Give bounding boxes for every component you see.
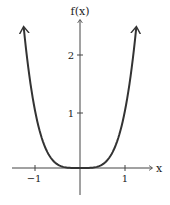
- chart-canvas: −1 1 1 2 x f(x): [0, 0, 170, 205]
- x-tick-label-neg1: −1: [27, 173, 42, 184]
- y-axis-label: f(x): [71, 5, 90, 18]
- x-axis-label: x: [156, 162, 163, 175]
- x-tick-label-1: 1: [122, 173, 128, 184]
- y-tick-label-2: 2: [68, 50, 74, 61]
- y-tick-label-1: 1: [68, 108, 74, 119]
